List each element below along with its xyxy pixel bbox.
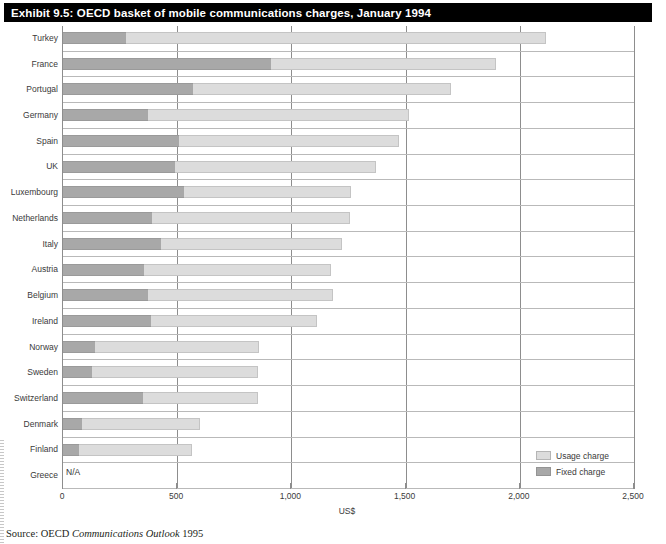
page-title: Exhibit 9.5: OECD basket of mobile commu… — [11, 7, 431, 19]
stacked-bar[interactable] — [63, 238, 342, 250]
chart-legend: Usage chargeFixed charge — [536, 450, 632, 482]
stacked-bar[interactable] — [63, 83, 451, 95]
bar-segment-fixed-charge[interactable] — [63, 109, 148, 121]
chart-container: TurkeyFrancePortugalGermanySpainUKLuxemb… — [0, 26, 666, 496]
bar-row[interactable] — [63, 52, 634, 78]
stacked-bar[interactable] — [63, 392, 258, 404]
x-axis-tick-label: 2,000 — [508, 491, 529, 501]
x-axis-tick-label: 1,000 — [280, 491, 301, 501]
bar-segment-usage-charge[interactable] — [144, 264, 331, 276]
stacked-bar[interactable] — [63, 212, 350, 224]
x-axis-tick-mark — [176, 483, 177, 489]
x-axis-tick-mark — [62, 483, 63, 489]
legend-label-fixed: Fixed charge — [556, 467, 605, 477]
bar-segment-usage-charge[interactable] — [92, 366, 259, 378]
bar-segment-usage-charge[interactable] — [82, 418, 200, 430]
bar-segment-fixed-charge[interactable] — [63, 289, 148, 301]
bar-segment-fixed-charge[interactable] — [63, 264, 144, 276]
bar-segment-usage-charge[interactable] — [175, 161, 376, 173]
bar-row[interactable] — [63, 412, 634, 438]
y-axis-label-finland: Finland — [2, 444, 58, 454]
bar-segment-fixed-charge[interactable] — [63, 366, 92, 378]
bar-segment-usage-charge[interactable] — [95, 341, 259, 353]
bar-row[interactable] — [63, 258, 634, 284]
y-axis-label-ireland: Ireland — [2, 316, 58, 326]
y-axis-label-denmark: Denmark — [2, 419, 58, 429]
bar-row[interactable] — [63, 335, 634, 361]
bar-segment-usage-charge[interactable] — [193, 83, 451, 95]
bar-segment-fixed-charge[interactable] — [63, 392, 143, 404]
y-axis-label-netherlands: Netherlands — [2, 213, 58, 223]
legend-swatch-fixed-icon — [536, 467, 551, 476]
bar-row[interactable] — [63, 26, 634, 52]
x-axis-tick-mark — [290, 483, 291, 489]
y-axis-label-portugal: Portugal — [2, 84, 58, 94]
y-axis-label-norway: Norway — [2, 342, 58, 352]
stacked-bar[interactable] — [63, 32, 546, 44]
bar-segment-usage-charge[interactable] — [152, 212, 350, 224]
bar-row[interactable] — [63, 103, 634, 129]
bar-segment-usage-charge[interactable] — [126, 32, 546, 44]
stacked-bar[interactable] — [63, 186, 351, 198]
stacked-bar[interactable] — [63, 315, 317, 327]
y-axis-label-switzerland: Switzerland — [2, 393, 58, 403]
bar-segment-usage-charge[interactable] — [148, 289, 333, 301]
bar-segment-usage-charge[interactable] — [143, 392, 258, 404]
y-axis-label-luxembourg: Luxembourg — [2, 187, 58, 197]
x-axis-tick-label: 500 — [169, 491, 183, 501]
bar-row[interactable] — [63, 360, 634, 386]
bar-segment-usage-charge[interactable] — [79, 444, 192, 456]
stacked-bar[interactable] — [63, 444, 192, 456]
y-axis-label-belgium: Belgium — [2, 290, 58, 300]
stacked-bar[interactable] — [63, 161, 376, 173]
x-axis: US$ 05001,0001,5002,0002,500 — [0, 489, 666, 529]
stacked-bar[interactable] — [63, 58, 496, 70]
bar-row[interactable] — [63, 180, 634, 206]
y-axis-label-austria: Austria — [2, 264, 58, 274]
bar-segment-fixed-charge[interactable] — [63, 135, 179, 147]
bar-segment-fixed-charge[interactable] — [63, 418, 82, 430]
legend-item-usage[interactable]: Usage charge — [536, 450, 632, 461]
stacked-bar[interactable] — [63, 341, 259, 353]
bar-segment-usage-charge[interactable] — [184, 186, 351, 198]
x-axis-tick-label: 1,500 — [394, 491, 415, 501]
bar-segment-fixed-charge[interactable] — [63, 83, 193, 95]
stacked-bar[interactable] — [63, 289, 333, 301]
stacked-bar[interactable] — [63, 366, 258, 378]
stacked-bar[interactable] — [63, 135, 399, 147]
stacked-bar[interactable] — [63, 264, 331, 276]
bar-segment-fixed-charge[interactable] — [63, 58, 271, 70]
bar-row[interactable] — [63, 283, 634, 309]
bar-segment-fixed-charge[interactable] — [63, 315, 151, 327]
bar-segment-fixed-charge[interactable] — [63, 238, 161, 250]
x-axis-tick-mark — [405, 483, 406, 489]
y-axis-label-spain: Spain — [2, 136, 58, 146]
bar-row[interactable] — [63, 129, 634, 155]
bar-row[interactable] — [63, 232, 634, 258]
y-axis-label-uk: UK — [2, 161, 58, 171]
stacked-bar[interactable] — [63, 109, 409, 121]
bar-segment-fixed-charge[interactable] — [63, 186, 184, 198]
bar-segment-usage-charge[interactable] — [151, 315, 317, 327]
source-note: Source: OECD Communications Outlook 1995 — [6, 528, 203, 539]
bar-row[interactable] — [63, 155, 634, 181]
source-year: 1995 — [180, 528, 204, 539]
legend-label-usage: Usage charge — [556, 451, 609, 461]
bar-row[interactable] — [63, 77, 634, 103]
bar-segment-fixed-charge[interactable] — [63, 32, 126, 44]
stacked-bar[interactable] — [63, 418, 200, 430]
bar-row[interactable] — [63, 386, 634, 412]
bar-segment-usage-charge[interactable] — [271, 58, 496, 70]
scan-spine-artifact — [0, 440, 4, 544]
bar-segment-fixed-charge[interactable] — [63, 212, 152, 224]
source-publication: Communications Outlook — [72, 528, 180, 539]
legend-item-fixed[interactable]: Fixed charge — [536, 466, 632, 477]
bar-row[interactable] — [63, 206, 634, 232]
bar-row[interactable] — [63, 309, 634, 335]
bar-segment-fixed-charge[interactable] — [63, 341, 95, 353]
bar-segment-fixed-charge[interactable] — [63, 161, 175, 173]
bar-segment-usage-charge[interactable] — [161, 238, 341, 250]
bar-segment-usage-charge[interactable] — [179, 135, 398, 147]
bar-segment-usage-charge[interactable] — [148, 109, 409, 121]
bar-segment-fixed-charge[interactable] — [63, 444, 79, 456]
